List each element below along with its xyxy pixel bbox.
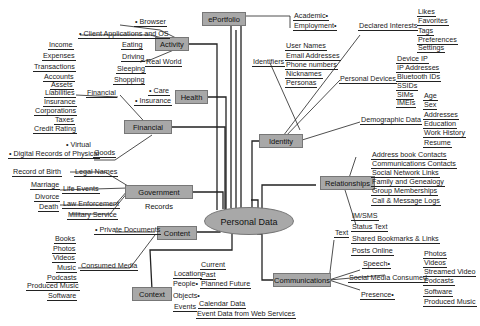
- leaf-presence[interactable]: Presence•: [360, 291, 395, 300]
- leaf-status-text[interactable]: Status Text: [351, 223, 388, 232]
- branch-events[interactable]: Events: [173, 303, 197, 312]
- leaf-divorce[interactable]: Divorce: [34, 193, 60, 202]
- leaf-software[interactable]: Software: [47, 292, 77, 301]
- node-communications[interactable]: Communications: [273, 273, 331, 287]
- leaf-sm-software[interactable]: Software: [423, 288, 453, 297]
- leaf-resume[interactable]: Resume: [423, 139, 452, 148]
- leaf-event-data-web[interactable]: Event Data from Web Services: [196, 310, 296, 319]
- leaf-legal-names[interactable]: Legal Names: [74, 168, 118, 177]
- leaf-record-of-birth[interactable]: Record of Birth: [12, 168, 62, 177]
- branch-text[interactable]: Text: [334, 229, 349, 238]
- leaf-law-enforcement[interactable]: Law Enforcement: [62, 200, 120, 209]
- leaf-shopping[interactable]: Shopping: [113, 76, 145, 85]
- node-financial[interactable]: Financial: [124, 120, 172, 134]
- leaf-transactions[interactable]: Transactions: [33, 63, 76, 72]
- leaf-academic[interactable]: Academic•: [293, 12, 329, 21]
- node-eportfolio[interactable]: ePortfolio: [202, 12, 246, 26]
- leaf-im-sms[interactable]: IM/SMS: [351, 212, 379, 221]
- leaf-music[interactable]: Music: [56, 264, 77, 273]
- leaf-produced-music[interactable]: Produced Music: [26, 282, 80, 291]
- leaf-videos[interactable]: Videos: [52, 254, 76, 263]
- node-health[interactable]: Health: [175, 90, 208, 104]
- branch-consumed-media[interactable]: Consumed Media: [80, 262, 138, 271]
- leaf-favorites[interactable]: Favorites: [417, 17, 449, 26]
- leaf-eating[interactable]: Eating: [121, 41, 143, 50]
- leaf-personas[interactable]: Personas: [285, 79, 317, 88]
- leaf-posts-online[interactable]: Posts Online: [351, 247, 394, 256]
- leaf-digital-records-of-physical[interactable]: • Digital Records of Physical: [8, 150, 100, 159]
- center-node-personal-data[interactable]: Personal Data: [204, 207, 294, 235]
- leaf-client-apps[interactable]: • Client Applications and OS: [78, 30, 170, 39]
- branch-financial[interactable]: Financial: [86, 89, 117, 98]
- leaf-browser[interactable]: • Browser: [134, 18, 167, 27]
- branch-social-media-consumed[interactable]: Social Media Consumed: [348, 274, 428, 283]
- branch-declared-interests[interactable]: Declared Interests: [358, 22, 418, 31]
- leaf-sex[interactable]: Sex: [423, 101, 437, 110]
- leaf-user-names[interactable]: User Names: [285, 42, 327, 51]
- branch-identifiers[interactable]: Identifiers: [252, 58, 285, 67]
- leaf-work-history[interactable]: Work History: [423, 129, 466, 138]
- leaf-sm-produced-music[interactable]: Produced Music: [423, 298, 477, 307]
- leaf-death[interactable]: Death: [38, 203, 59, 212]
- leaf-calendar-data[interactable]: Calendar Data: [198, 300, 246, 309]
- leaf-employment[interactable]: Employment•: [293, 22, 337, 31]
- leaf-expenses[interactable]: Expenses: [42, 52, 76, 61]
- leaf-marriage[interactable]: Marriage: [30, 181, 60, 190]
- node-relationships[interactable]: Relationships: [320, 176, 375, 190]
- leaf-virtual[interactable]: • Virtual: [66, 141, 91, 149]
- leaf-income[interactable]: Income: [48, 41, 74, 50]
- mind-map-canvas: Personal Data ePortfolio Activity Health…: [0, 0, 480, 326]
- leaf-call-message-logs[interactable]: Call & Message Logs: [371, 197, 441, 206]
- node-content[interactable]: Content: [157, 226, 197, 240]
- leaf-driving[interactable]: Driving: [121, 53, 145, 62]
- branch-life-events[interactable]: Life Events: [62, 185, 100, 194]
- branch-personal-devices[interactable]: Personal Devices: [339, 75, 397, 84]
- leaf-books[interactable]: Books: [54, 235, 76, 244]
- leaf-settings[interactable]: Settings: [417, 44, 445, 53]
- leaf-sleeping[interactable]: Sleeping: [116, 65, 146, 74]
- leaf-military-service[interactable]: Military Service: [67, 211, 118, 220]
- branch-real-world[interactable]: Real World: [145, 58, 182, 67]
- leaf-insurance-health[interactable]: • Insurance: [134, 97, 172, 106]
- branch-demographic-data[interactable]: Demographic Data: [360, 116, 422, 125]
- leaf-objects[interactable]: Objects•: [173, 292, 200, 300]
- leaf-care[interactable]: • Care: [148, 87, 170, 96]
- leaf-current[interactable]: Current: [200, 261, 226, 270]
- leaf-sm-podcasts[interactable]: Podcasts: [423, 277, 455, 286]
- node-identity[interactable]: Identity: [259, 134, 303, 148]
- leaf-planned-future[interactable]: Planned Future: [200, 280, 251, 289]
- leaf-shared-bookmarks[interactable]: Shared Bookmarks & Links: [351, 235, 440, 244]
- leaf-speech[interactable]: Speech•: [362, 260, 391, 269]
- leaf-group-memberships[interactable]: Group Memberships: [371, 187, 438, 196]
- leaf-imeis[interactable]: IMEIs: [396, 99, 416, 108]
- leaf-people[interactable]: People•: [173, 280, 198, 288]
- node-activity[interactable]: Activity: [155, 37, 189, 51]
- branch-location[interactable]: Location: [173, 270, 202, 279]
- leaf-private-documents[interactable]: • Private Documents: [94, 226, 161, 235]
- node-context[interactable]: Context: [132, 287, 172, 301]
- node-government-records[interactable]: Government Records: [125, 185, 193, 199]
- leaf-credit-rating[interactable]: Credit Rating: [33, 125, 77, 134]
